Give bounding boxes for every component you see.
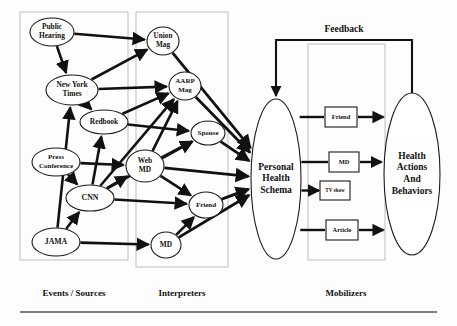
md-node-label-line-0: MD bbox=[160, 240, 172, 249]
new-york-times-label-line-1: Times bbox=[62, 89, 81, 98]
health-actions-label-line-0: Health bbox=[398, 151, 426, 161]
region-label-mobilizers: Mobilizers bbox=[326, 288, 367, 298]
edge-new-york-times-to-redbook bbox=[85, 103, 91, 109]
spouse-label-line-0: Spouse bbox=[197, 129, 218, 137]
union-mag-label-line-0: Union bbox=[154, 32, 173, 40]
health-actions-label-line-1: Actions bbox=[397, 162, 428, 172]
edge-spouse-to-personal-health-schema bbox=[221, 142, 249, 161]
edge-web-md-to-spouse bbox=[162, 141, 192, 157]
edge-redbook-to-spouse bbox=[128, 125, 189, 131]
mobilizer-friend-label: Friend bbox=[332, 113, 351, 120]
personal-health-schema-label-line-0: Personal bbox=[258, 162, 294, 172]
edge-cnn-to-redbook bbox=[92, 136, 101, 184]
region-labels-layer: Events / SourcesInterpretersMobilizers bbox=[43, 288, 367, 298]
feedback-label: Feedback bbox=[324, 24, 364, 34]
web-md-label-line-1: MD bbox=[139, 165, 151, 174]
edge-jama-to-md-node bbox=[80, 243, 148, 245]
edge-redbook-to-aarp-mag bbox=[122, 93, 168, 113]
region-label-events-sources: Events / Sources bbox=[43, 288, 106, 298]
edge-web-md-to-friend-node bbox=[161, 176, 191, 195]
mobilizer-md-label: MD bbox=[339, 158, 350, 165]
edge-new-york-times-to-aarp-mag bbox=[98, 87, 166, 89]
health-actions-label-line-2: And bbox=[403, 174, 421, 184]
public-hearing-label-line-1: Hearing bbox=[39, 31, 65, 40]
edge-new-york-times-to-union-mag bbox=[91, 50, 147, 80]
edge-press-conference-to-cnn bbox=[68, 175, 77, 185]
jama-label-line-0: JAMA bbox=[45, 237, 68, 246]
friend-node-label-line-0: Friend bbox=[196, 201, 216, 209]
mobilizer-boxes-layer: FriendMDTV showArticle bbox=[300, 107, 384, 240]
cnn-label-line-0: CNN bbox=[82, 193, 99, 202]
personal-health-schema-label-line-1: Health bbox=[262, 173, 290, 183]
new-york-times-label-line-0: New York bbox=[56, 80, 88, 89]
aarp-mag-label-line-1: Mag bbox=[178, 86, 192, 94]
region-events-sources bbox=[20, 12, 128, 260]
edge-jama-to-cnn bbox=[66, 212, 79, 229]
press-conference-label-line-0: Press bbox=[48, 153, 64, 161]
diagram-canvas: Feedback FriendMDTV showArticle PublicHe… bbox=[0, 0, 457, 326]
edge-public-hearing-to-union-mag bbox=[74, 34, 144, 40]
mobilizer-tvshow-label: TV show bbox=[325, 187, 345, 193]
public-hearing-label-line-0: Public bbox=[42, 22, 63, 31]
edge-cnn-to-friend-node bbox=[114, 199, 186, 203]
region-label-interpreters: Interpreters bbox=[159, 288, 206, 298]
mobilizer-article-label: Article bbox=[333, 226, 352, 233]
redbook-label-line-0: Redbook bbox=[90, 117, 119, 126]
feedback-loop-layer: Feedback bbox=[276, 24, 412, 96]
aarp-mag-label-line-0: AARP bbox=[175, 77, 195, 85]
health-actions-label-line-3: Behaviors bbox=[392, 186, 433, 196]
feedback-arrow bbox=[276, 40, 412, 96]
web-md-label-line-0: Web bbox=[138, 156, 152, 165]
health-communication-diagram: Feedback FriendMDTV showArticle PublicHe… bbox=[0, 0, 457, 326]
personal-health-schema-label-line-2: Schema bbox=[260, 185, 292, 195]
union-mag-label-line-1: Mag bbox=[156, 41, 170, 49]
edge-web-md-to-personal-health-schema bbox=[164, 168, 248, 176]
press-conference-label-line-1: Conference bbox=[39, 162, 73, 170]
edge-public-hearing-to-new-york-times bbox=[57, 46, 66, 73]
